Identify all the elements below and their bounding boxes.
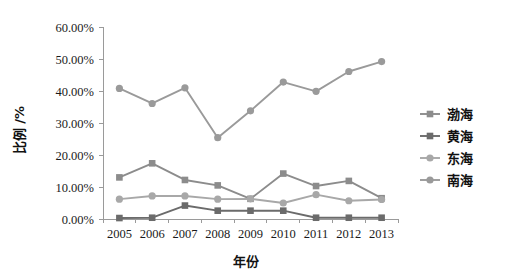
legend-label: 南海 <box>447 173 473 188</box>
x-axis-tick-label: 2011 <box>304 227 329 241</box>
legend-item-渤海[interactable]: 渤海 <box>420 107 473 122</box>
series-黄海 <box>116 202 385 221</box>
y-axis-tick-label: 40.00% <box>55 85 94 99</box>
data-point-marker <box>214 182 221 189</box>
data-point-marker <box>378 214 385 221</box>
x-axis-title: 年份 <box>233 254 260 269</box>
data-point-marker <box>280 170 287 177</box>
data-point-marker <box>280 199 287 206</box>
data-point-marker <box>247 195 254 202</box>
chart-legend: 渤海黄海东海南海 <box>420 107 473 188</box>
legend-item-东海[interactable]: 东海 <box>420 151 473 166</box>
x-axis-tick-label: 2006 <box>140 227 165 241</box>
x-axis-tick-label: 2005 <box>107 227 132 241</box>
data-point-marker <box>313 183 320 190</box>
chart-svg: 0.00%10.00%20.00%30.00%40.00%50.00%60.00… <box>0 0 518 280</box>
data-point-marker <box>346 178 353 185</box>
x-axis-tick-label: 2009 <box>238 227 263 241</box>
data-point-marker <box>378 58 385 65</box>
data-point-marker <box>116 215 123 222</box>
y-axis-tick-label: 20.00% <box>55 149 94 163</box>
data-point-marker <box>181 84 188 91</box>
data-point-marker <box>378 196 385 203</box>
y-axis-tick-label: 0.00% <box>62 213 94 227</box>
data-point-marker <box>116 174 123 181</box>
x-axis-tick-label: 2013 <box>369 227 394 241</box>
series-line <box>119 62 381 138</box>
data-point-marker <box>214 196 221 203</box>
legend-item-黄海[interactable]: 黄海 <box>420 129 473 144</box>
y-axis-tick-label: 10.00% <box>55 181 94 195</box>
data-point-marker <box>312 88 319 95</box>
data-point-marker <box>149 100 156 107</box>
x-axis-tick-group: 200520062007200820092010201120122013 <box>103 219 398 241</box>
series-line <box>119 163 381 199</box>
x-axis-tick-label: 2012 <box>336 227 361 241</box>
data-point-marker <box>312 191 319 198</box>
data-point-marker <box>182 202 189 209</box>
legend-marker <box>426 176 433 183</box>
data-point-marker <box>214 134 221 141</box>
legend-label: 东海 <box>447 151 473 166</box>
data-point-marker <box>149 214 156 221</box>
legend-item-南海[interactable]: 南海 <box>420 173 473 188</box>
legend-label: 渤海 <box>447 107 473 122</box>
data-point-marker <box>345 68 352 75</box>
x-axis-tick-label: 2007 <box>172 227 197 241</box>
series-东海 <box>116 191 385 207</box>
line-chart: 0.00%10.00%20.00%30.00%40.00%50.00%60.00… <box>0 0 518 280</box>
data-point-marker <box>116 196 123 203</box>
legend-marker <box>427 111 434 118</box>
data-point-marker <box>280 207 287 214</box>
legend-marker <box>426 154 433 161</box>
data-point-marker <box>247 207 254 214</box>
data-point-marker <box>346 214 353 221</box>
data-point-marker <box>214 207 221 214</box>
y-axis-tick-group: 0.00%10.00%20.00%30.00%40.00%50.00%60.00… <box>55 21 103 227</box>
data-point-marker <box>313 214 320 221</box>
data-point-marker <box>345 197 352 204</box>
data-point-marker <box>247 107 254 114</box>
series-南海 <box>116 58 385 141</box>
data-point-marker <box>182 177 189 184</box>
y-axis-tick-label: 30.00% <box>55 117 94 131</box>
data-point-marker <box>116 85 123 92</box>
legend-label: 黄海 <box>447 129 473 144</box>
data-point-marker <box>280 78 287 85</box>
y-axis-tick-label: 60.00% <box>55 21 94 35</box>
series-group <box>116 58 385 221</box>
legend-marker <box>427 133 434 140</box>
y-axis-tick-label: 50.00% <box>55 53 94 67</box>
data-point-marker <box>149 160 156 167</box>
data-point-marker <box>181 192 188 199</box>
data-point-marker <box>149 192 156 199</box>
x-axis-tick-label: 2010 <box>271 227 296 241</box>
x-axis-tick-label: 2008 <box>205 227 230 241</box>
y-axis-title: 比例 /% <box>12 106 27 154</box>
axis-lines <box>103 27 398 219</box>
